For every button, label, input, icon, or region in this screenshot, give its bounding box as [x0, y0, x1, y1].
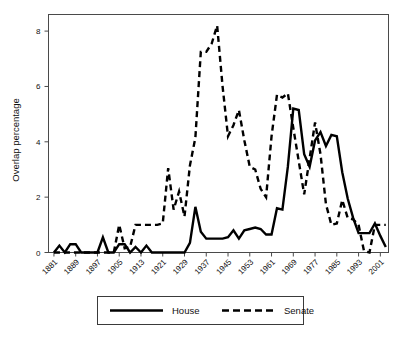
- x-tick-label: 1953: [236, 257, 255, 276]
- x-tick-label: 1905: [106, 257, 125, 276]
- y-tick-label: 8: [36, 27, 41, 36]
- legend-label-senate: Senate: [284, 305, 314, 316]
- y-tick-label: 6: [36, 82, 41, 91]
- y-tick-label: 0: [36, 249, 41, 258]
- x-tick-label: 1985: [323, 257, 342, 276]
- data-series-group: [54, 26, 386, 253]
- x-tick-label: 1961: [258, 257, 277, 276]
- y-axis-ticks: 02468: [36, 27, 48, 257]
- x-tick-label: 1945: [214, 257, 233, 276]
- series-line-senate: [54, 26, 386, 253]
- x-tick-label: 1969: [280, 257, 299, 276]
- x-tick-label: 1889: [62, 257, 81, 276]
- y-axis-label: Overlap percentage: [10, 98, 21, 181]
- x-tick-label: 1913: [127, 257, 146, 276]
- x-tick-label: 1929: [171, 257, 190, 276]
- chart-legend: House Senate: [98, 297, 315, 325]
- y-tick-label: 2: [36, 193, 41, 202]
- x-tick-label: 1993: [345, 257, 364, 276]
- x-tick-label: 1937: [193, 257, 212, 276]
- x-tick-label: 1921: [149, 257, 168, 276]
- x-tick-label: 2001: [367, 257, 386, 276]
- x-tick-label: 1977: [302, 257, 321, 276]
- x-axis-ticks: 1881188918971905191319211929193719451953…: [40, 253, 386, 277]
- y-axis-label-text: Overlap percentage: [10, 98, 21, 181]
- x-tick-label: 1881: [40, 257, 59, 276]
- overlap-percentage-line-chart: Overlap percentage 02468 188118891897190…: [0, 0, 400, 337]
- y-tick-label: 4: [36, 138, 41, 147]
- chart-figure: Overlap percentage 02468 188118891897190…: [0, 0, 400, 337]
- legend-label-house: House: [172, 305, 199, 316]
- x-tick-label: 1897: [84, 257, 103, 276]
- series-line-house: [54, 109, 386, 253]
